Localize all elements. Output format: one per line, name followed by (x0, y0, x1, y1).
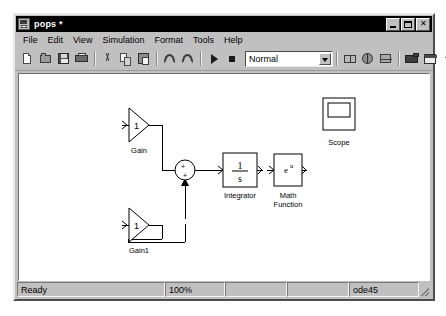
new-document-icon (20, 51, 35, 66)
window-controls: ✕ (386, 18, 432, 31)
scissors-icon (100, 51, 115, 66)
minimize-button[interactable] (386, 18, 400, 31)
menu-item-view[interactable]: View (68, 34, 97, 46)
sum-block[interactable]: + + (175, 160, 195, 180)
stop-square-icon (224, 51, 239, 66)
open-folder-icon (38, 51, 53, 66)
integrator-denominator: s (238, 173, 242, 184)
paste-icon (136, 51, 151, 66)
gain1-label: Gain1 (129, 246, 149, 255)
status-solver: ode45 (349, 282, 419, 297)
toolbar-separator-1 (94, 51, 96, 66)
build-model-button[interactable] (403, 50, 420, 67)
paste-button[interactable] (135, 50, 152, 67)
maximize-button[interactable] (401, 18, 415, 31)
model-explorer-button[interactable] (359, 50, 376, 67)
copy-button[interactable] (117, 50, 134, 67)
scope-label: Scope (328, 138, 349, 147)
menu-item-simulation[interactable]: Simulation (97, 34, 149, 46)
window-icon (422, 51, 437, 66)
simulation-mode-value: Normal (246, 54, 278, 64)
math-function-label-line1: Math (280, 191, 297, 200)
menu-item-file[interactable]: File (18, 34, 43, 46)
math-function-block[interactable]: e u Math Function (274, 154, 303, 209)
integrator-numerator: 1 (238, 160, 243, 171)
toolbar-separator-4 (336, 51, 338, 66)
math-function-label-line2: Function (274, 200, 303, 209)
integrator-block[interactable]: 1 s Integrator (223, 153, 257, 200)
toolbar-separator-3 (200, 51, 202, 66)
print-model-button[interactable] (73, 50, 90, 67)
status-message: Ready (17, 282, 165, 297)
block-diagram: 1 Gain 1 Gain1 + + 1 s Integrator (19, 74, 430, 281)
gain-block[interactable]: 1 Gain (129, 108, 149, 155)
update-diagram-button[interactable] (377, 50, 394, 67)
floppy-disk-icon (56, 51, 71, 66)
sum-sign-top: + (181, 163, 185, 170)
resize-grip[interactable] (419, 282, 431, 297)
wire-gain-to-sum[interactable] (147, 125, 176, 170)
maximize-icon (402, 19, 414, 30)
menu-item-tools[interactable]: Tools (188, 34, 219, 46)
toolbar-separator-5 (398, 51, 400, 66)
toolbar: Normal (15, 47, 433, 71)
title-bar: pops * ✕ (16, 16, 432, 32)
undo-button[interactable] (161, 50, 178, 67)
gain1-block[interactable]: 1 Gain1 (129, 208, 149, 255)
open-model-button[interactable] (37, 50, 54, 67)
menu-bar: File Edit View Simulation Format Tools H… (15, 32, 433, 47)
play-icon (206, 51, 221, 66)
go-up-button[interactable] (439, 50, 446, 67)
save-model-button[interactable] (55, 50, 72, 67)
cut-button[interactable] (99, 50, 116, 67)
chevron-down-icon[interactable] (319, 53, 331, 65)
menu-item-help[interactable]: Help (219, 34, 248, 46)
window-title: pops * (34, 19, 63, 29)
status-extra-2 (287, 282, 349, 297)
close-button[interactable]: ✕ (416, 18, 430, 31)
sum-sign-bottom: + (183, 172, 187, 179)
undo-arrow-icon (162, 51, 177, 66)
menu-item-format[interactable]: Format (149, 34, 188, 46)
gain-label: Gain (131, 146, 147, 155)
status-bar: Ready 100% ode45 (17, 282, 431, 297)
integrator-label: Integrator (224, 191, 257, 200)
redo-button[interactable] (179, 50, 196, 67)
gain-value: 1 (134, 121, 139, 131)
simulation-mode-select[interactable]: Normal (245, 51, 333, 67)
toggle-window-button[interactable] (421, 50, 438, 67)
math-function-base: e (284, 165, 288, 175)
start-simulation-button[interactable] (205, 50, 222, 67)
math-function-rect[interactable] (274, 154, 302, 186)
toolbar-separator-2 (156, 51, 158, 66)
status-extra-1 (225, 282, 287, 297)
truck-icon (404, 51, 419, 66)
globe-icon (360, 51, 375, 66)
library-browser-button[interactable] (341, 50, 358, 67)
minimize-icon (387, 19, 399, 30)
simulink-model-icon (18, 18, 30, 30)
menu-item-edit[interactable]: Edit (43, 34, 69, 46)
copy-icon (118, 51, 133, 66)
redo-arrow-icon (180, 51, 195, 66)
scope-screen (328, 103, 350, 117)
new-model-button[interactable] (19, 50, 36, 67)
library-book-icon (342, 51, 357, 66)
scope-block[interactable]: Scope (323, 98, 355, 147)
brick-block-icon (378, 51, 393, 66)
simulink-model-window: pops * ✕ File Edit View Simulation Forma… (13, 13, 435, 301)
printer-icon (74, 51, 89, 66)
gain1-value: 1 (134, 221, 139, 231)
up-arrow-icon (440, 51, 446, 66)
status-zoom-level: 100% (165, 282, 225, 297)
close-icon: ✕ (417, 19, 429, 30)
stop-simulation-button[interactable] (223, 50, 240, 67)
model-canvas[interactable]: 1 Gain 1 Gain1 + + 1 s Integrator (18, 73, 430, 281)
